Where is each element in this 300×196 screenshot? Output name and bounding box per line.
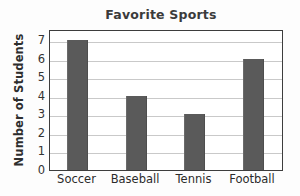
x-axis-tick-label: Baseball [111,173,160,187]
x-axis-tick-label: Tennis [176,173,212,187]
y-axis-tick-labels: 01234567 [30,30,45,171]
y-axis-tick-label: 7 [30,35,45,47]
y-axis-tick-label: 1 [30,147,45,159]
bar-chart: Favorite Sports Number of Students 01234… [0,0,300,196]
bar [126,96,147,170]
y-axis-tick-label: 2 [30,128,45,140]
chart-title: Favorite Sports [0,7,300,22]
y-axis-tick-label: 0 [30,165,45,177]
bar [243,59,264,170]
x-axis-tick-label: Soccer [57,173,96,187]
y-axis-tick-label: 5 [30,72,45,84]
y-axis-title: Number of Students [8,28,30,172]
y-axis-title-text: Number of Students [12,34,26,167]
x-axis-tick-labels: SoccerBaseballTennisFootball [49,173,283,191]
bar [184,114,205,170]
plot-area [49,30,283,171]
y-axis-tick-label: 6 [30,54,45,66]
y-axis-tick-label: 4 [30,91,45,103]
x-axis-tick-label: Football [229,173,275,187]
bar [67,40,88,170]
y-axis-tick-label: 3 [30,110,45,122]
